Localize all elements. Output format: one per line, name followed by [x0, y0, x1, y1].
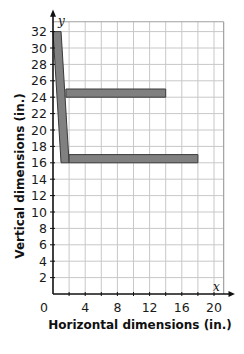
y-tick-label: 26	[31, 73, 47, 88]
x-axis-arrow-icon	[228, 291, 234, 297]
x-tick-label: 8	[113, 300, 121, 315]
y-tick-labels: 2468101214161820222426283032	[31, 24, 47, 285]
x-tick-labels: 048121620	[40, 300, 222, 315]
y-tick-label: 16	[31, 155, 47, 170]
y-tick-label: 32	[31, 24, 47, 39]
lower-horizontal-bar	[69, 155, 198, 163]
y-tick-label: 20	[31, 123, 47, 138]
y-tick-label: 24	[31, 90, 47, 105]
x-tick-label: 16	[174, 300, 190, 315]
upper-horizontal-bar	[66, 89, 166, 97]
y-axis-variable: y	[57, 14, 65, 28]
x-tick-label: 20	[206, 300, 222, 315]
axes	[50, 9, 235, 297]
x-tick-label: 4	[81, 300, 89, 315]
y-tick-label: 6	[39, 237, 47, 252]
y-tick-label: 28	[31, 57, 47, 72]
y-tick-label: 4	[39, 254, 47, 269]
x-axis-variable: x	[213, 280, 220, 294]
y-tick-label: 12	[31, 188, 47, 203]
x-axis-label: Horizontal dimensions (in.)	[48, 318, 232, 332]
y-tick-label: 10	[31, 205, 47, 220]
y-axis-label: Vertical dimensions (in.)	[13, 93, 27, 258]
chart: 2468101214161820222426283032 048121620 y…	[0, 0, 244, 354]
y-tick-label: 18	[31, 139, 47, 154]
y-tick-label: 14	[31, 172, 47, 187]
y-tick-label: 22	[31, 106, 47, 121]
x-tick-label: 12	[142, 300, 158, 315]
y-tick-label: 30	[31, 41, 47, 56]
y-tick-label: 2	[39, 270, 47, 285]
y-tick-label: 8	[39, 221, 47, 236]
x-tick-label: 0	[40, 300, 48, 315]
y-axis-arrow-icon	[50, 9, 56, 16]
